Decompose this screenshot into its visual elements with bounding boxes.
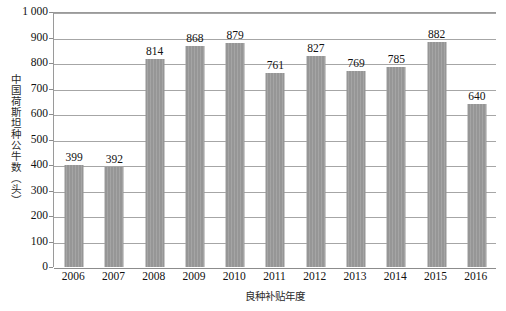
bar[interactable] bbox=[226, 43, 245, 267]
x-axis-tick-label: 2015 bbox=[424, 269, 447, 283]
x-axis-tick-label: 2010 bbox=[223, 269, 246, 283]
bars-layer: 399392814868879761827769785882640 bbox=[54, 13, 496, 267]
bar-value-label: 814 bbox=[146, 45, 163, 57]
bar-value-label: 769 bbox=[347, 57, 364, 69]
y-axis-tick-label: 400 bbox=[4, 159, 48, 171]
bar-chart: 中国荷斯坦种公牛数（头） 010020030040050060070080090… bbox=[0, 0, 506, 311]
bar-slot: 827 bbox=[296, 13, 336, 267]
x-axis-tick-label: 2013 bbox=[344, 269, 367, 283]
y-axis-tick-label: 0 bbox=[4, 261, 48, 273]
bar-value-label: 399 bbox=[66, 151, 83, 163]
y-axis-tick-mark bbox=[49, 140, 53, 141]
y-axis-tick-label: 900 bbox=[4, 32, 48, 44]
x-axis-tick-label: 2006 bbox=[62, 269, 85, 283]
y-axis-tick-label: 300 bbox=[4, 185, 48, 197]
bar-value-label: 882 bbox=[428, 28, 445, 40]
y-axis-tick-label: 1 000 bbox=[4, 6, 48, 18]
y-axis-tick-label: 100 bbox=[4, 236, 48, 248]
bar-slot: 868 bbox=[175, 13, 215, 267]
y-axis-tick-mark bbox=[49, 216, 53, 217]
x-axis-tick-label: 2008 bbox=[142, 269, 165, 283]
y-axis-tick-mark bbox=[49, 267, 53, 268]
bar[interactable] bbox=[266, 73, 285, 267]
y-axis-tick-label: 200 bbox=[4, 210, 48, 222]
bar[interactable] bbox=[347, 71, 366, 267]
x-axis-tick-labels: 2006200720082009201020112012201320142015… bbox=[53, 269, 496, 287]
bar[interactable] bbox=[145, 59, 164, 267]
x-axis-tick-label: 2011 bbox=[263, 269, 286, 283]
bar-value-label: 879 bbox=[227, 29, 244, 41]
bar-slot: 814 bbox=[135, 13, 175, 267]
bar-value-label: 827 bbox=[307, 42, 324, 54]
bar-slot: 761 bbox=[255, 13, 295, 267]
bar-slot: 640 bbox=[457, 13, 497, 267]
y-axis-tick-mark bbox=[49, 165, 53, 166]
bar-slot: 392 bbox=[94, 13, 134, 267]
x-axis-tick-label: 2014 bbox=[384, 269, 407, 283]
bar[interactable] bbox=[105, 167, 124, 267]
bar[interactable] bbox=[185, 46, 204, 267]
x-axis-tick-label: 2007 bbox=[102, 269, 125, 283]
bar-slot: 399 bbox=[54, 13, 94, 267]
bar-slot: 882 bbox=[416, 13, 456, 267]
bar[interactable] bbox=[467, 104, 486, 267]
bar-value-label: 392 bbox=[106, 153, 123, 165]
y-axis-tick-label: 500 bbox=[4, 134, 48, 146]
bar-slot: 879 bbox=[215, 13, 255, 267]
y-axis-tick-mark bbox=[49, 242, 53, 243]
bar[interactable] bbox=[65, 165, 84, 267]
bar[interactable] bbox=[306, 56, 325, 267]
y-axis-tick-mark bbox=[49, 89, 53, 90]
bar-value-label: 761 bbox=[267, 59, 284, 71]
y-axis-tick-mark bbox=[49, 114, 53, 115]
y-axis-tick-mark bbox=[49, 38, 53, 39]
bar-value-label: 785 bbox=[388, 53, 405, 65]
plot-area: 399392814868879761827769785882640 bbox=[53, 12, 496, 267]
bar[interactable] bbox=[427, 42, 446, 267]
y-axis-tick-mark bbox=[49, 63, 53, 64]
y-axis-tick-mark bbox=[49, 12, 53, 13]
x-axis-tick-label: 2016 bbox=[464, 269, 487, 283]
x-axis-tick-label: 2012 bbox=[303, 269, 326, 283]
bar-slot: 785 bbox=[376, 13, 416, 267]
x-axis-tick-label: 2009 bbox=[182, 269, 205, 283]
x-axis-title: 良种补贴年度 bbox=[53, 290, 496, 303]
y-axis-tick-label: 800 bbox=[4, 57, 48, 69]
bar[interactable] bbox=[387, 67, 406, 267]
bar-slot: 769 bbox=[336, 13, 376, 267]
bar-value-label: 640 bbox=[468, 90, 485, 102]
y-axis-tick-label: 700 bbox=[4, 83, 48, 95]
y-axis-tick-mark bbox=[49, 191, 53, 192]
y-axis-tick-label: 600 bbox=[4, 108, 48, 120]
y-axis-tick-labels: 01002003004005006007008009001 000 bbox=[0, 12, 48, 267]
bar-value-label: 868 bbox=[186, 32, 203, 44]
